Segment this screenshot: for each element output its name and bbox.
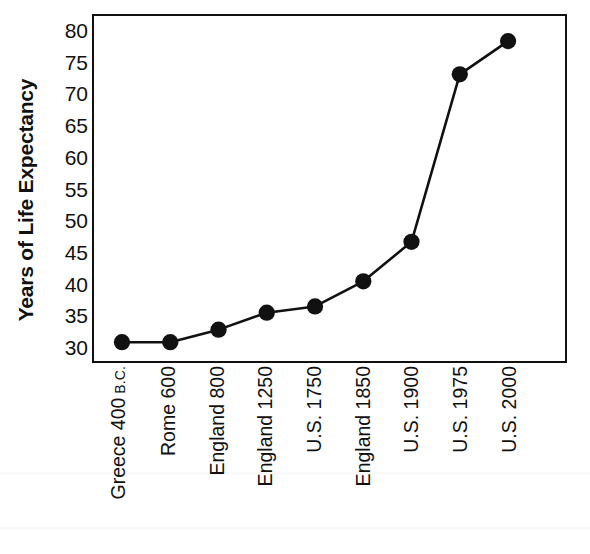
x-tick-label-slot: U.S. 2000 <box>496 366 524 554</box>
x-tick-label-slot: Greece 400 B.C. <box>106 366 134 554</box>
x-tick-label-slot: England 1850 <box>350 366 378 554</box>
data-point-marker <box>403 234 419 250</box>
x-tick-label-main: Greece 400 <box>107 398 129 500</box>
x-tick-label: U.S. 1750 <box>305 366 325 453</box>
y-tick-label: 30 <box>46 337 88 358</box>
x-tick-label: U.S. 1900 <box>402 366 422 453</box>
y-tick-label: 65 <box>46 115 88 136</box>
y-tick-label: 70 <box>46 83 88 104</box>
y-tick-label: 40 <box>46 273 88 294</box>
x-tick-label-slot: England 1250 <box>252 366 280 554</box>
x-tick-label-slot: U.S. 1900 <box>398 366 426 554</box>
plot-area <box>92 14 567 363</box>
data-point-marker <box>162 334 178 350</box>
x-tick-label-era: B.C. <box>112 366 128 398</box>
x-tick-label: England 1850 <box>354 366 374 486</box>
x-tick-label-main: U.S. 1900 <box>400 366 422 453</box>
data-point-marker <box>210 322 226 338</box>
data-point-marker <box>355 273 371 289</box>
y-tick-label: 50 <box>46 210 88 231</box>
x-tick-label-slot: England 800 <box>204 366 232 554</box>
y-tick-label: 55 <box>46 178 88 199</box>
life-expectancy-line-chart: Years of Life Expectancy 303540455055606… <box>0 0 590 554</box>
x-tick-label-main: England 1250 <box>254 366 276 486</box>
y-axis-title: Years of Life Expectancy <box>14 35 38 365</box>
x-tick-label-main: U.S. 1750 <box>303 366 325 453</box>
data-point-marker <box>452 66 468 82</box>
x-tick-label-main: U.S. 1975 <box>449 366 471 453</box>
x-tick-label-main: Rome 600 <box>157 366 179 456</box>
y-tick-label: 75 <box>46 51 88 72</box>
x-tick-label: U.S. 1975 <box>451 366 471 453</box>
y-tick-label: 45 <box>46 241 88 262</box>
series-line <box>122 41 508 342</box>
x-tick-label: Greece 400 B.C. <box>109 366 131 500</box>
y-tick-label: 80 <box>46 19 88 40</box>
x-tick-label-slot: U.S. 1975 <box>447 366 475 554</box>
y-tick-label: 35 <box>46 305 88 326</box>
x-tick-label-slot: U.S. 1750 <box>301 366 329 554</box>
y-axis-tick-labels: 3035404550556065707580 <box>46 0 88 380</box>
data-point-marker <box>259 305 275 321</box>
data-point-marker <box>114 334 130 350</box>
data-point-marker <box>500 33 516 49</box>
x-axis-tick-labels: Greece 400 B.C.Rome 600England 800Englan… <box>92 366 567 554</box>
y-tick-label: 60 <box>46 146 88 167</box>
x-tick-label: England 800 <box>208 366 228 476</box>
x-tick-label-main: England 800 <box>206 366 228 476</box>
x-tick-label: U.S. 2000 <box>500 366 520 453</box>
series-markers <box>114 33 516 350</box>
x-tick-label-slot: Rome 600 <box>155 366 183 554</box>
x-tick-label: Rome 600 <box>159 366 179 456</box>
data-point-marker <box>307 298 323 314</box>
data-series-svg <box>94 16 565 361</box>
x-tick-label-main: England 1850 <box>352 366 374 486</box>
x-tick-label: England 1250 <box>256 366 276 486</box>
x-tick-label-main: U.S. 2000 <box>498 366 520 453</box>
